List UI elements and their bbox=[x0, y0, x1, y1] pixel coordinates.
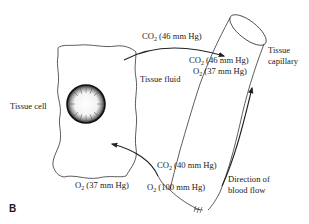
label-co2-venous: CO2 (46 mm Hg) bbox=[189, 56, 249, 65]
label-tissue-cell: Tissue cell bbox=[10, 102, 47, 111]
gas-exchange-diagram: CO2 (46 mm Hg) CO2 (46 mm Hg) O2 (37 mm … bbox=[0, 0, 309, 224]
label-o2-venous: O2 (37 mm Hg) bbox=[193, 67, 247, 76]
label-o2-cell: O2 (37 mm Hg) bbox=[75, 181, 129, 190]
nucleus-icon bbox=[67, 85, 105, 123]
panel-label: B bbox=[9, 203, 16, 214]
capillary-opening bbox=[225, 9, 271, 50]
label-co2-arterial: CO2 (40 mm Hg) bbox=[157, 161, 217, 170]
capillary-cut-end-icon bbox=[194, 206, 203, 213]
label-blood-flow: Direction of blood flow bbox=[228, 175, 270, 194]
label-tissue-fluid: Tissue fluid bbox=[140, 75, 181, 84]
label-o2-arterial: O2 (100 mm Hg) bbox=[147, 183, 205, 192]
label-tissue-capillary: Tissue capillary bbox=[268, 46, 298, 65]
label-co2-diffusing: CO2 (46 mm Hg) bbox=[142, 32, 202, 41]
